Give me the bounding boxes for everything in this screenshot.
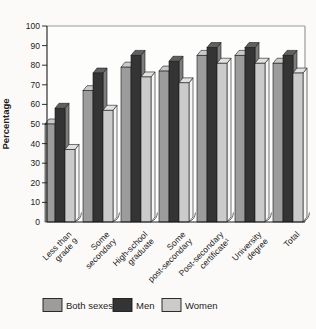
y-axis-title: Percentage — [0, 98, 11, 149]
x-category-label: Somesecondary — [77, 229, 119, 271]
legend-swatch — [43, 299, 62, 312]
bar-side-face — [227, 58, 231, 222]
legend-item: Men — [113, 299, 154, 312]
bar-side-face — [303, 68, 307, 222]
bar-side-face — [113, 105, 117, 222]
bar-group — [121, 50, 155, 222]
x-category-label-line: Total — [282, 229, 302, 249]
bar — [207, 48, 217, 222]
x-category-label: Total — [282, 229, 302, 249]
bar-side-face — [151, 72, 155, 222]
bar — [131, 55, 141, 222]
bar-side-face — [189, 78, 193, 222]
y-tick-label: 80 — [31, 60, 41, 70]
bar — [159, 71, 169, 222]
legend-item: Both sexes — [43, 299, 113, 312]
x-axis-labels: Less thangrade 9SomesecondaryHigh-school… — [40, 229, 301, 285]
y-tick-label: 60 — [31, 99, 41, 109]
y-tick-label: 30 — [31, 158, 41, 168]
y-tick-label: 40 — [31, 139, 41, 149]
bar-group — [197, 43, 231, 222]
bar — [65, 149, 75, 222]
x-category-label: Universitydegree — [230, 229, 271, 270]
bar-group — [235, 43, 269, 222]
y-tick-label: 10 — [31, 197, 41, 207]
bar-group — [273, 50, 307, 222]
bar — [255, 63, 265, 222]
legend-label: Men — [136, 300, 154, 311]
bar — [93, 73, 103, 222]
bar — [83, 91, 93, 222]
legend-label: Both sexes — [66, 300, 113, 311]
y-tick-label: 100 — [26, 21, 40, 31]
bar — [245, 48, 255, 222]
bar — [121, 67, 131, 222]
bar — [179, 83, 189, 222]
bar-group — [159, 56, 193, 222]
bar-side-face — [75, 144, 79, 222]
bar — [217, 63, 227, 222]
legend-swatch — [113, 299, 132, 312]
legend: Both sexesMenWomen — [43, 299, 218, 312]
bar — [169, 61, 179, 222]
bar — [273, 63, 283, 222]
y-tick-label: 70 — [31, 80, 41, 90]
y-tick-label: 50 — [31, 119, 41, 129]
legend-item: Women — [162, 299, 218, 312]
bar — [283, 55, 293, 222]
legend-label: Women — [185, 300, 218, 311]
bar-chart-figure: 0102030405060708090100 Percentage Less t… — [0, 0, 316, 329]
y-tick-label: 0 — [35, 217, 40, 227]
bar — [103, 110, 113, 222]
bar — [235, 55, 245, 222]
bar — [197, 55, 207, 222]
bar — [55, 108, 65, 222]
legend-swatch — [162, 299, 181, 312]
bar-side-face — [265, 58, 269, 222]
y-tick-label: 90 — [31, 41, 41, 51]
x-category-label: Less thangrade 9 — [40, 229, 80, 269]
x-category-label: High-schoolgraduate — [111, 229, 157, 275]
y-tick-label: 20 — [31, 178, 41, 188]
bar-chart: 0102030405060708090100 Percentage Less t… — [0, 0, 316, 329]
bar — [293, 73, 303, 222]
bar — [141, 77, 151, 222]
